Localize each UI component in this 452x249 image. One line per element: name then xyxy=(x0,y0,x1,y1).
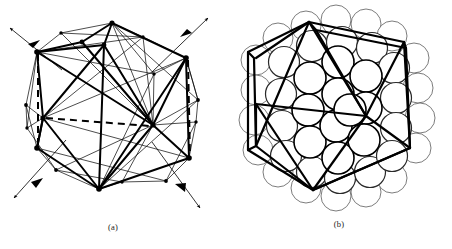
figure-root: (a) xyxy=(0,0,452,249)
vertex-center-right xyxy=(150,122,155,127)
vertex-upper-mid xyxy=(80,40,85,45)
vertex-inner-apex xyxy=(102,43,107,48)
panel-a-drawing xyxy=(0,0,226,215)
vertex-center-left xyxy=(40,115,45,120)
panel-b-drawing xyxy=(226,0,452,212)
vertex-lower-left xyxy=(34,145,40,151)
axis-lower-right xyxy=(152,142,200,208)
panel-b-sphere-packing: (b) xyxy=(226,0,452,249)
thin-vertex-markers xyxy=(24,31,200,183)
panel-a-caption: (a) xyxy=(0,222,226,232)
vertex-upper-left xyxy=(34,49,40,55)
vertex-lower-right xyxy=(186,155,192,161)
bold-polyhedron-edges xyxy=(37,23,189,189)
vertex-upper-right xyxy=(183,55,189,61)
panel-a-wireframe-icosahedron: (a) xyxy=(0,0,226,249)
vertex-top xyxy=(109,20,114,25)
panel-b-caption: (b) xyxy=(226,219,452,229)
dashed-edge-horizontal xyxy=(46,118,150,126)
vertex-bottom xyxy=(96,186,102,192)
